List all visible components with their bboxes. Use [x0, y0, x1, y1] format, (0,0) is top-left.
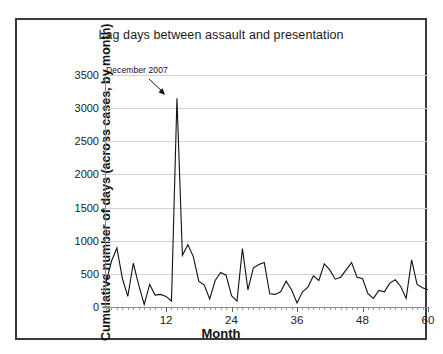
y-tick-label: 500: [81, 268, 99, 280]
x-tick-minor: [259, 307, 260, 310]
x-tick-minor: [395, 307, 396, 310]
x-tick-minor: [188, 307, 189, 310]
x-tick-minor: [286, 307, 287, 310]
x-tick-label: 36: [291, 314, 304, 326]
x-tick-minor: [193, 307, 194, 310]
x-tick-major: [363, 307, 364, 312]
x-tick-minor: [324, 307, 325, 310]
annotation-arrow-icon: [147, 77, 173, 99]
x-tick-minor: [319, 307, 320, 310]
x-tick-major: [166, 307, 167, 312]
x-tick-label: 60: [422, 314, 435, 326]
x-tick-minor: [215, 307, 216, 310]
x-tick-minor: [357, 307, 358, 310]
x-tick-minor: [308, 307, 309, 310]
x-tick-minor: [346, 307, 347, 310]
chart-title: Lag days between assault and presentatio…: [17, 28, 425, 42]
x-tick-minor: [210, 307, 211, 310]
x-tick-minor: [264, 307, 265, 310]
plot-area: Cumulative number of days (across cases,…: [106, 75, 428, 307]
x-tick-minor: [292, 307, 293, 310]
x-tick-minor: [171, 307, 172, 310]
x-tick-major: [232, 307, 233, 312]
x-tick-minor: [275, 307, 276, 310]
x-tick-minor: [161, 307, 162, 310]
x-tick-label: 12: [160, 314, 173, 326]
x-axis-title: Month: [17, 326, 425, 341]
x-tick-minor: [390, 307, 391, 310]
y-tick-label: 1000: [75, 235, 99, 247]
x-tick-minor: [128, 307, 129, 310]
x-tick-minor: [117, 307, 118, 310]
y-tick-label: 2000: [75, 168, 99, 180]
x-tick-minor: [330, 307, 331, 310]
x-tick-minor: [412, 307, 413, 310]
annotation-label: December 2007: [106, 65, 168, 75]
x-tick-minor: [144, 307, 145, 310]
x-tick-minor: [204, 307, 205, 310]
x-tick-minor: [182, 307, 183, 310]
x-tick-minor: [373, 307, 374, 310]
x-tick-minor: [106, 307, 107, 310]
y-tick-label: 0: [93, 301, 99, 313]
x-tick-minor: [111, 307, 112, 310]
x-tick-major: [428, 307, 429, 312]
x-tick-minor: [341, 307, 342, 310]
x-tick-minor: [417, 307, 418, 310]
x-tick-label: 48: [356, 314, 369, 326]
x-tick-label: 24: [225, 314, 238, 326]
data-series-line: [106, 75, 428, 307]
x-tick-minor: [242, 307, 243, 310]
y-tick-label: 2500: [75, 135, 99, 147]
x-tick-minor: [253, 307, 254, 310]
x-tick-minor: [384, 307, 385, 310]
x-tick-minor: [302, 307, 303, 310]
x-tick-minor: [133, 307, 134, 310]
x-tick-minor: [270, 307, 271, 310]
x-tick-minor: [155, 307, 156, 310]
x-tick-minor: [379, 307, 380, 310]
x-tick-minor: [177, 307, 178, 310]
x-tick-minor: [150, 307, 151, 310]
x-tick-minor: [368, 307, 369, 310]
x-tick-minor: [221, 307, 222, 310]
chart-frame: Lag days between assault and presentatio…: [15, 18, 427, 340]
x-tick-minor: [401, 307, 402, 310]
y-tick-label: 1500: [75, 202, 99, 214]
x-tick-minor: [122, 307, 123, 310]
x-tick-minor: [335, 307, 336, 310]
x-tick-minor: [313, 307, 314, 310]
x-tick-minor: [226, 307, 227, 310]
x-tick-minor: [139, 307, 140, 310]
x-tick-minor: [237, 307, 238, 310]
x-tick-minor: [352, 307, 353, 310]
x-tick-major: [297, 307, 298, 312]
x-tick-minor: [406, 307, 407, 310]
y-tick-label: 3000: [75, 102, 99, 114]
x-tick-minor: [248, 307, 249, 310]
x-tick-minor: [281, 307, 282, 310]
x-tick-minor: [199, 307, 200, 310]
y-tick-label: 3500: [75, 69, 99, 81]
x-tick-minor: [423, 307, 424, 310]
